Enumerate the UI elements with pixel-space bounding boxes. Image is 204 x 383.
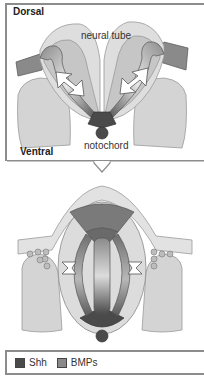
notochord-bottom (96, 330, 108, 342)
legend: Shh BMPs (5, 350, 204, 375)
diagram-canvas (0, 0, 204, 383)
label-ventral: Ventral (20, 146, 53, 157)
central-gradient-bar (94, 238, 110, 314)
shh-swatch-icon (15, 358, 25, 368)
label-notochord: notochord (84, 140, 128, 151)
somite-right-bottom (142, 254, 182, 332)
transition-arrow (7, 161, 204, 172)
legend-item-shh: Shh (15, 357, 47, 368)
legend-item-bmps: BMPs (57, 357, 98, 368)
label-neural-tube: neural tube (81, 30, 131, 41)
legend-label-shh: Shh (29, 357, 47, 368)
bmp-swatch-icon (57, 358, 67, 368)
somite-left-bottom (22, 254, 62, 332)
legend-label-bmps: BMPs (71, 357, 98, 368)
bottom-diagram (18, 186, 192, 342)
label-dorsal: Dorsal (13, 6, 44, 17)
notochord-top (96, 127, 108, 139)
